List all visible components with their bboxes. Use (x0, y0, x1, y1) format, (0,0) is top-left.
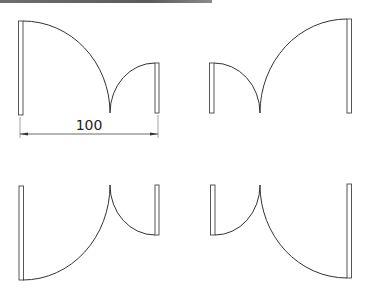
small-leaf-swing-arc (215, 185, 260, 235)
small-door-leaf (211, 185, 216, 235)
arrow-left-icon (20, 133, 28, 136)
large-door-leaf (347, 184, 352, 278)
small-leaf-swing-arc (214, 63, 260, 113)
small-door-leaf (155, 63, 159, 113)
large-door-leaf (347, 19, 352, 113)
door-variant-top-left: 100 (19, 21, 160, 138)
arrow-right-icon (150, 133, 158, 136)
door-variant-bottom-right (211, 184, 352, 278)
large-door-leaf (19, 186, 24, 280)
large-leaf-swing-arc (23, 185, 110, 280)
dimension-label: 100 (76, 117, 103, 133)
door-diagram-canvas: 100 (0, 0, 366, 296)
door-variant-top-right (210, 19, 352, 113)
small-door-leaf (155, 185, 159, 235)
large-door-leaf (19, 21, 24, 115)
door-variant-bottom-left (19, 185, 159, 280)
large-leaf-swing-arc (23, 21, 110, 113)
large-leaf-swing-arc (260, 185, 347, 278)
small-leaf-swing-arc (110, 63, 155, 113)
dimension-line: 100 (20, 115, 158, 138)
small-leaf-swing-arc (110, 185, 155, 235)
small-door-leaf (210, 63, 215, 113)
large-leaf-swing-arc (260, 19, 347, 113)
